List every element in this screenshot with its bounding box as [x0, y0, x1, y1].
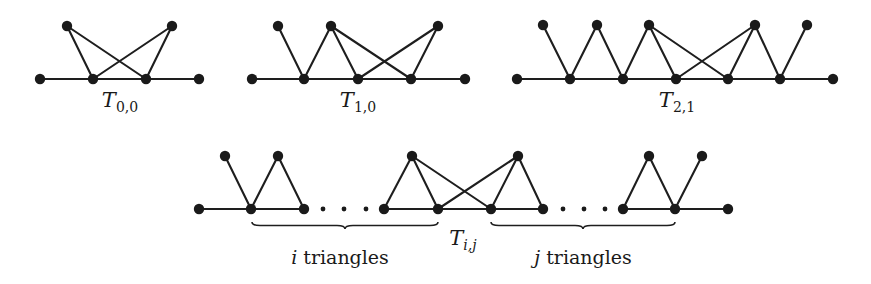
- ellipsis-dot: [342, 207, 347, 212]
- graph-vertex: [273, 151, 283, 161]
- graph-vertex: [644, 151, 654, 161]
- graph-edge: [384, 156, 412, 209]
- graph-vertex: [141, 74, 151, 84]
- ellipsis-dot: [582, 207, 587, 212]
- graph-vertex: [273, 21, 283, 31]
- graph-vertex: [750, 20, 760, 30]
- graph-vertex: [670, 204, 680, 214]
- graph-edge: [304, 26, 331, 79]
- graph-vertex: [512, 74, 522, 84]
- ellipsis-dot: [603, 207, 608, 212]
- graph-label-T10: T1,0: [340, 88, 376, 115]
- graph-vertex: [353, 74, 363, 84]
- graph-vertex: [247, 74, 257, 84]
- graph-vertex: [88, 74, 98, 84]
- graph-label-T00: T0,0: [102, 88, 138, 115]
- graph-vertex: [460, 74, 470, 84]
- graph-vertex: [407, 151, 417, 161]
- graph-vertex: [299, 204, 309, 214]
- graph-vertex: [486, 204, 496, 214]
- graph-edge: [278, 26, 304, 79]
- graph-vertex: [671, 74, 681, 84]
- graph-edge: [623, 156, 649, 209]
- graph-Tij: [199, 156, 728, 209]
- graph-edge: [278, 156, 304, 209]
- graph-vertex: [723, 204, 733, 214]
- graph-vertex: [538, 204, 548, 214]
- graph-label-Tij: Ti,j: [449, 226, 477, 253]
- graph-vertex: [433, 21, 443, 31]
- graph-vertex: [62, 21, 72, 31]
- graph-vertex: [406, 74, 416, 84]
- underbrace: [491, 222, 675, 229]
- graph-vertex: [618, 74, 628, 84]
- graph-edge: [675, 156, 702, 209]
- graph-vertex: [802, 20, 812, 30]
- graph-vertex: [194, 204, 204, 214]
- graph-vertex: [538, 20, 548, 30]
- graph-vertex: [35, 74, 45, 84]
- graph-vertex: [775, 74, 785, 84]
- graph-vertex: [513, 151, 523, 161]
- graph-vertex: [697, 151, 707, 161]
- graph-vertex: [565, 74, 575, 84]
- graph-edge: [225, 156, 251, 209]
- graph-edge: [649, 156, 675, 209]
- graph-vertex: [220, 151, 230, 161]
- graph-vertex: [433, 204, 443, 214]
- brace-caption: i triangles: [291, 246, 389, 268]
- ellipsis-dot: [364, 207, 369, 212]
- braces-layer: [252, 222, 675, 229]
- graph-label-T21: T2,1: [659, 88, 695, 115]
- graph-vertex: [644, 20, 654, 30]
- underbrace: [252, 222, 438, 229]
- nodes-layer: [35, 20, 838, 214]
- graph-vertex: [299, 74, 309, 84]
- graph-edge: [780, 25, 807, 79]
- graph-T10: [252, 26, 465, 79]
- ellipsis-dot: [561, 207, 566, 212]
- graph-vertex: [246, 204, 256, 214]
- graph-edge: [251, 156, 278, 209]
- graph-vertex: [828, 74, 838, 84]
- graph-edge: [518, 156, 543, 209]
- brace-caption: j triangles: [530, 246, 632, 268]
- ellipsis-dot: [321, 207, 326, 212]
- graph-edge: [570, 25, 597, 79]
- graph-vertex: [723, 74, 733, 84]
- labels-layer: T0,0T1,0T2,1i trianglesj trianglesTi,j: [102, 88, 695, 268]
- graph-figure: T0,0T1,0T2,1i trianglesj trianglesTi,j: [0, 0, 871, 284]
- graph-edge: [543, 25, 570, 79]
- graph-edge: [755, 25, 780, 79]
- graph-vertex: [618, 204, 628, 214]
- graph-edge: [623, 25, 649, 79]
- edges-layer: [40, 25, 833, 209]
- graph-T21: [517, 25, 833, 79]
- graph-vertex: [326, 21, 336, 31]
- graph-edge: [597, 25, 623, 79]
- graph-vertex: [167, 21, 177, 31]
- graph-T00: [40, 26, 199, 79]
- graph-vertex: [379, 204, 389, 214]
- graph-vertex: [592, 20, 602, 30]
- graph-vertex: [194, 74, 204, 84]
